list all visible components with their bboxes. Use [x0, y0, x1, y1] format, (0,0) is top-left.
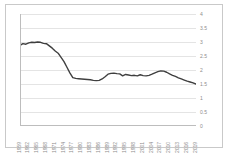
x-tick-label: 2016: [184, 142, 189, 153]
x-tick-label: 2001: [140, 142, 145, 153]
y-tick-label: 1: [200, 96, 203, 101]
y-axis-labels: 00.511.522.533.54: [198, 5, 229, 135]
x-tick-label: 2019: [193, 142, 198, 153]
x-tick-label: 2010: [166, 142, 171, 153]
y-tick-label: 2: [200, 68, 203, 73]
plot-area: [20, 14, 196, 126]
x-tick-label: 1959: [17, 142, 22, 153]
x-tick-label: 2007: [157, 142, 162, 153]
y-tick-label: 0.5: [200, 110, 207, 115]
x-tick-label: 1965: [34, 142, 39, 153]
x-tick-label: 1995: [122, 142, 127, 153]
x-tick-label: 1974: [61, 142, 66, 153]
x-tick-label: 1977: [69, 142, 74, 153]
x-tick-label: 1971: [52, 142, 57, 153]
y-tick-label: 3.5: [200, 26, 207, 31]
chart-frame: 00.511.522.533.54 1959196219651968197119…: [5, 4, 223, 148]
x-tick-label: 1968: [43, 142, 48, 153]
y-tick-label: 1.5: [200, 82, 207, 87]
x-tick-label: 1989: [105, 142, 110, 153]
x-axis-labels: 1959196219651968197119741977198019831986…: [20, 127, 196, 153]
line-series: [20, 14, 196, 126]
y-tick-label: 2.5: [200, 54, 207, 59]
x-tick-label: 1986: [96, 142, 101, 153]
y-tick-label: 4: [200, 12, 203, 17]
x-tick-label: 1992: [113, 142, 118, 153]
y-tick-label: 3: [200, 40, 203, 45]
x-tick-label: 2004: [149, 142, 154, 153]
x-tick-label: 1983: [87, 142, 92, 153]
y-tick-label: 0: [200, 124, 203, 129]
x-tick-label: 2013: [175, 142, 180, 153]
x-tick-label: 1980: [78, 142, 83, 153]
x-tick-label: 1962: [25, 142, 30, 153]
x-tick-label: 1998: [131, 142, 136, 153]
